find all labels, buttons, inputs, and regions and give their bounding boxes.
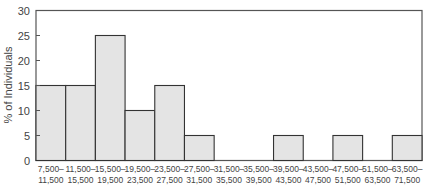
x-category-label: 7,500–11,500 xyxy=(38,164,64,185)
x-category-label: 27,500–31,500 xyxy=(184,164,215,185)
histogram-bar xyxy=(66,86,96,161)
histogram-bar xyxy=(155,86,185,161)
y-tick-label: 0 xyxy=(24,155,30,167)
y-tick-label: 20 xyxy=(18,55,30,67)
x-category-label: 15,500–19,500 xyxy=(95,164,126,185)
x-axis-labels: 7,500–11,50011,500–15,50015,500–19,50019… xyxy=(38,164,423,185)
histogram-bar xyxy=(274,136,304,161)
x-category-label: 23,500–27,500 xyxy=(154,164,185,185)
y-tick-label: 25 xyxy=(18,30,30,42)
x-category-label: 19,500–23,500 xyxy=(125,164,156,185)
x-category-label: 63,500–71,500 xyxy=(392,164,423,185)
y-tick-label: 15 xyxy=(18,80,30,92)
x-category-label: 43,500–47,500 xyxy=(303,164,334,185)
x-category-label: 11,500–15,500 xyxy=(65,164,95,185)
histogram-chart: 051015202530 7,500–11,50011,500–15,50015… xyxy=(0,0,429,190)
x-category-label: 31,500–35,500 xyxy=(214,164,245,185)
histogram-bar xyxy=(36,86,66,161)
y-axis-title: % of Individuals xyxy=(2,46,14,124)
y-tick-label: 10 xyxy=(18,105,30,117)
x-category-label: 51,500–63,500 xyxy=(362,164,393,185)
histogram-bar xyxy=(333,136,363,161)
x-category-label: 47,500–51,500 xyxy=(332,164,363,185)
bars-group xyxy=(36,36,422,161)
histogram-bar xyxy=(95,36,125,161)
x-category-label: 35,500–39,500 xyxy=(243,164,274,185)
y-tick-label: 5 xyxy=(24,130,30,142)
y-tick-label: 30 xyxy=(18,5,30,17)
x-category-label: 39,500–43,500 xyxy=(273,164,304,185)
histogram-bar xyxy=(392,136,422,161)
histogram-bar xyxy=(184,136,214,161)
histogram-bar xyxy=(125,111,155,161)
